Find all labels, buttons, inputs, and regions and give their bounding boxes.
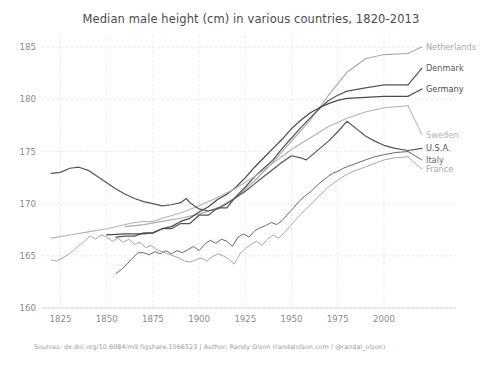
legend-label-germany[interactable]: Germany	[426, 84, 464, 94]
chart-figure: Median male height (cm) in various count…	[0, 0, 502, 366]
legend-leader-germany	[408, 89, 422, 96]
x-tick-label: 1975	[327, 314, 349, 324]
series-line-usa	[51, 121, 408, 211]
x-tick-label: 1850	[96, 314, 118, 324]
y-tick-label: 165	[20, 251, 36, 261]
legend-label-usa[interactable]: U.S.A.	[426, 143, 450, 153]
x-tick-label: 1925	[234, 314, 256, 324]
x-tick-label: 1825	[50, 314, 72, 324]
x-tick-label: 1950	[281, 314, 303, 324]
series-line-sweden	[51, 106, 408, 238]
y-tick-label: 160	[20, 303, 36, 313]
legend-label-netherlands[interactable]: Netherlands	[426, 42, 476, 52]
series-line-denmark	[116, 85, 408, 237]
x-tick-label: 2000	[373, 314, 395, 324]
series-line-netherlands	[125, 54, 408, 227]
y-tick-label: 170	[20, 199, 36, 209]
series-line-germany	[107, 96, 408, 235]
legend-leader-denmark	[408, 68, 422, 85]
x-tick-label: 1900	[188, 314, 210, 324]
y-tick-label: 175	[20, 147, 36, 157]
legend-label-france[interactable]: France	[426, 164, 453, 174]
series-line-france	[51, 157, 408, 264]
legend-label-sweden[interactable]: Sweden	[426, 130, 458, 140]
legend-leader-sweden	[408, 106, 422, 135]
legend-leader-usa	[408, 148, 422, 150]
x-tick-label: 1875	[142, 314, 164, 324]
legend-label-denmark[interactable]: Denmark	[426, 63, 464, 73]
source-note: Sources: dx.doi.org/10.6084/m9.figshare.…	[34, 343, 385, 351]
plot-area: 1601651701751801851825185018751900192519…	[0, 0, 502, 366]
y-tick-label: 185	[20, 42, 36, 52]
y-tick-label: 180	[20, 94, 36, 104]
legend-leader-netherlands	[408, 47, 422, 54]
